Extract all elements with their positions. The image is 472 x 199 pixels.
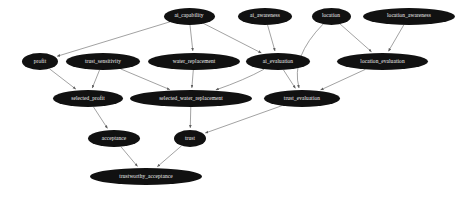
graph-node-trustworthy_acceptance[interactable]: trustworthy_acceptance [90,168,202,185]
graph-node-ai_evaluation[interactable]: ai_evaluation [246,53,310,70]
graph-node-label: selected_profit [71,96,105,101]
graph-node-label: water_replacement [173,59,216,64]
graph-edge-trust_sensitivity-to-selected_water_replacement [121,69,170,90]
graph-edge-water_replacement-to-selected_water_replacement [192,70,193,88]
graph-edge-location_evaluation-to-trust_evaluation [321,69,366,90]
graph-node-ai_awareness[interactable]: ai_awareness [238,8,292,25]
graph-node-location_awareness[interactable]: location_awareness [363,8,455,25]
graph-node-label: location [322,13,340,18]
graph-edge-trust_sensitivity-to-selected_profit [92,70,99,88]
graph-edge-ai_evaluation-to-selected_water_replacement [216,69,264,90]
graph-edge-ai_awareness-to-ai_evaluation [267,24,275,50]
causal-graph-canvas: ai_capabilityai_awarenesslocationlocatio… [0,0,472,199]
graph-edge-selected_water_replacement-to-trust [190,107,191,128]
graph-node-label: trust_evaluation [284,96,320,101]
graph-node-label: selected_water_replacement [159,96,223,101]
graph-edge-selected_profit-to-acceptance [93,107,107,128]
graph-edge-location-to-location_evaluation [340,24,372,52]
graph-edge-location_awareness-to-location_evaluation [389,24,405,51]
graph-node-trust[interactable]: trust [174,130,206,147]
graph-node-label: trust_sensitivity [85,59,121,64]
graph-edge-acceptance-to-trustworthy_acceptance [121,147,138,167]
graph-edge-trust-to-trustworthy_acceptance [157,146,181,167]
graph-node-trust_sensitivity[interactable]: trust_sensitivity [66,53,140,70]
graph-edge-trust_evaluation-to-trust [205,106,281,133]
graph-edge-ai_capability-to-water_replacement [190,24,193,50]
graph-edge-ai_capability-to-profit [57,22,170,57]
graph-node-label: ai_awareness [250,13,280,18]
graph-node-label: ai_capability [174,13,203,18]
graph-node-label: profit [34,59,47,64]
graph-node-label: trust [185,136,195,141]
graph-node-ai_capability[interactable]: ai_capability [164,8,215,25]
graph-node-acceptance[interactable]: acceptance [88,130,140,147]
graph-node-location[interactable]: location [312,8,351,25]
graph-edge-profit-to-selected_profit [49,69,75,89]
graph-node-label: location_awareness [387,13,431,18]
graph-node-label: acceptance [102,136,127,141]
graph-node-profit[interactable]: profit [22,53,58,70]
graph-node-label: location_evaluation [360,59,404,64]
graph-node-water_replacement[interactable]: water_replacement [148,53,240,70]
graph-node-selected_profit[interactable]: selected_profit [53,90,123,107]
graph-node-trust_evaluation[interactable]: trust_evaluation [264,90,340,107]
graph-node-selected_water_replacement[interactable]: selected_water_replacement [130,90,252,107]
graph-node-location_evaluation[interactable]: location_evaluation [337,53,428,70]
graph-edge-ai_evaluation-to-trust_evaluation [283,70,295,88]
graph-edge-ai_capability-to-ai_evaluation [203,23,261,53]
graph-node-label: ai_evaluation [263,59,293,64]
graph-node-label: trustworthy_acceptance [119,174,172,179]
